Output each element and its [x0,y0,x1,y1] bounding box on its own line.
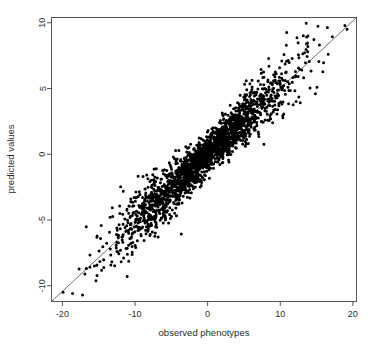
x-tick-label: -20 [56,309,69,319]
x-axis-label: observed phenotypes [159,327,250,338]
x-tick-label: 10 [275,309,285,319]
plot-canvas: -20-1001020-10-50510 observed phenotypes… [0,0,373,347]
y-tick-label: 10 [38,18,48,28]
y-axis-label: predicted values [5,124,16,193]
x-tick-label: 20 [348,309,358,319]
y-tick-label: 5 [38,86,48,91]
scatter-plot-figure: -20-1001020-10-50510 observed phenotypes… [0,0,373,347]
x-tick-label: -10 [129,309,142,319]
y-tick-label: -5 [38,216,48,224]
y-tick-label: 0 [38,152,48,157]
x-tick-label: 0 [205,309,210,319]
y-tick-label: -10 [38,279,48,292]
